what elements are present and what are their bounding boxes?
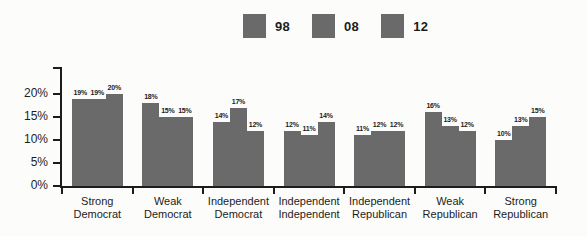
- bar-value-label: 11%: [302, 125, 315, 132]
- bar-value-label: 19%: [91, 89, 104, 96]
- bar-12-2: [247, 131, 264, 186]
- bar-value-label: 13%: [443, 116, 456, 123]
- bar-value-label: 13%: [514, 116, 527, 123]
- page: 98 08 12 0%5%10%15%20%19%19%20%Strong De…: [0, 0, 587, 236]
- y-tick: [53, 116, 60, 118]
- y-tick-label: 20%: [6, 86, 48, 100]
- bar-98-2: [213, 122, 230, 186]
- bar-value-label: 15%: [531, 107, 544, 114]
- x-tick: [61, 186, 63, 194]
- y-tick: [53, 93, 60, 95]
- bar-value-label: 16%: [426, 102, 439, 109]
- bar-08-3: [301, 135, 318, 186]
- x-category-label: Independent Democrat: [199, 195, 277, 221]
- y-tick: [53, 162, 60, 164]
- bar-value-label: 11%: [356, 125, 369, 132]
- bar-value-label: 12%: [373, 121, 386, 128]
- bar-value-label: 10%: [497, 130, 510, 137]
- bar-12-3: [318, 122, 335, 186]
- bar-08-1: [159, 117, 176, 186]
- bar-08-4: [371, 131, 388, 186]
- x-tick: [484, 186, 486, 194]
- bar-value-label: 12%: [249, 121, 262, 128]
- x-category-label: Independent Republican: [341, 195, 419, 221]
- x-tick: [343, 186, 345, 194]
- bar-value-label: 20%: [108, 84, 121, 91]
- bar-value-label: 14%: [215, 112, 228, 119]
- bar-12-5: [459, 131, 476, 186]
- bar-chart: 0%5%10%15%20%19%19%20%Strong Democrat18%…: [0, 0, 587, 236]
- bar-value-label: 18%: [144, 93, 157, 100]
- bar-98-3: [284, 131, 301, 186]
- bar-value-label: 15%: [178, 107, 191, 114]
- y-axis-top-tick: [53, 67, 60, 69]
- y-axis-line: [60, 67, 62, 188]
- y-tick-label: 0%: [6, 178, 48, 192]
- y-tick-label: 5%: [6, 155, 48, 169]
- y-tick: [53, 139, 60, 141]
- x-category-label: Weak Democrat: [129, 195, 207, 221]
- y-tick-label: 15%: [6, 109, 48, 123]
- x-tick: [273, 186, 275, 194]
- bar-98-5: [425, 112, 442, 186]
- bar-12-4: [388, 131, 405, 186]
- bar-value-label: 17%: [232, 98, 245, 105]
- bar-08-5: [442, 126, 459, 186]
- bar-value-label: 14%: [319, 112, 332, 119]
- y-tick: [53, 185, 60, 187]
- bar-08-6: [512, 126, 529, 186]
- x-category-label: Strong Republican: [482, 195, 560, 221]
- bar-98-6: [495, 140, 512, 186]
- x-tick: [555, 186, 557, 194]
- x-tick: [202, 186, 204, 194]
- bar-value-label: 19%: [74, 89, 87, 96]
- bar-98-4: [354, 135, 371, 186]
- x-category-label: Strong Democrat: [58, 195, 136, 221]
- bar-08-0: [89, 99, 106, 186]
- x-tick: [132, 186, 134, 194]
- bar-value-label: 12%: [390, 121, 403, 128]
- bar-98-0: [72, 99, 89, 186]
- x-axis-line: [60, 186, 556, 188]
- x-category-label: Independent Independent: [270, 195, 348, 221]
- bar-value-label: 12%: [285, 121, 298, 128]
- bar-value-label: 12%: [460, 121, 473, 128]
- y-tick-label: 10%: [6, 132, 48, 146]
- bar-98-1: [142, 103, 159, 186]
- bar-12-1: [176, 117, 193, 186]
- x-category-label: Weak Republican: [411, 195, 489, 221]
- x-tick: [414, 186, 416, 194]
- bar-12-0: [106, 94, 123, 186]
- bar-value-label: 15%: [161, 107, 174, 114]
- bar-08-2: [230, 108, 247, 186]
- bar-12-6: [529, 117, 546, 186]
